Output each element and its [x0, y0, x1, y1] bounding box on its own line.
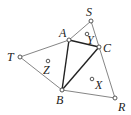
point-R [113, 96, 117, 100]
point-S [89, 19, 93, 23]
point-T [18, 55, 22, 59]
label-C: C [103, 41, 112, 55]
label-B: B [56, 93, 64, 107]
label-T: T [7, 50, 15, 64]
point-C [97, 45, 101, 49]
geometry-diagram: S A C T B R Y Z X [0, 0, 131, 115]
point-B [60, 88, 64, 92]
edge-RB [62, 90, 115, 98]
label-A: A [58, 26, 67, 40]
edge-TA [20, 40, 69, 57]
edge-BT [20, 57, 62, 90]
label-Z: Z [43, 63, 50, 77]
label-S: S [86, 5, 92, 19]
label-R: R [117, 100, 126, 114]
point-A [67, 38, 71, 42]
edge-AC [69, 40, 99, 47]
triangle-ABC [62, 40, 99, 90]
label-Y: Y [87, 33, 95, 47]
center-X [90, 77, 94, 81]
label-X: X [94, 78, 103, 92]
